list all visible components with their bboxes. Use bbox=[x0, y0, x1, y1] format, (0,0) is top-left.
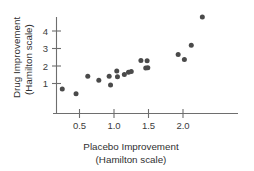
data-point bbox=[145, 65, 150, 70]
data-point bbox=[108, 82, 113, 87]
data-point bbox=[176, 52, 181, 57]
x-tick-label-0-5: 0.5 bbox=[73, 120, 86, 131]
data-point bbox=[107, 74, 112, 79]
data-point bbox=[96, 78, 101, 83]
data-points-layer bbox=[60, 15, 205, 97]
data-point bbox=[60, 87, 65, 92]
data-point bbox=[189, 43, 194, 48]
data-point bbox=[200, 15, 205, 20]
data-point bbox=[182, 57, 187, 62]
data-point bbox=[129, 69, 134, 74]
y-tick-label-1: 1 bbox=[43, 78, 48, 89]
data-point bbox=[138, 58, 143, 63]
y-tick-label-3: 3 bbox=[43, 43, 48, 54]
data-point bbox=[85, 74, 90, 79]
data-point bbox=[145, 58, 150, 63]
y-axis-tick-labels: 4 3 2 1 bbox=[43, 26, 48, 90]
y-axis-title: Drug Improvement (Hamilton scale) bbox=[11, 17, 34, 98]
y-tick-label-2: 2 bbox=[43, 61, 48, 72]
x-axis-title-line2: (Hamilton scale) bbox=[96, 154, 167, 165]
scatter-plot-figure: 4 3 2 1 Drug Improvement (Hamilton scale… bbox=[0, 0, 254, 171]
y-axis-group: 4 3 2 1 Drug Improvement (Hamilton scale… bbox=[11, 17, 61, 113]
x-tick-label-1-0: 1.0 bbox=[107, 120, 120, 131]
y-tick-label-4: 4 bbox=[43, 26, 48, 37]
data-point bbox=[114, 68, 119, 73]
y-axis-title-line2: (Hamilton scale) bbox=[23, 24, 34, 95]
plot-canvas: 4 3 2 1 Drug Improvement (Hamilton scale… bbox=[0, 0, 254, 171]
data-point bbox=[74, 91, 79, 96]
x-axis-title-line1: Placebo Improvement bbox=[83, 141, 179, 152]
data-point bbox=[115, 74, 120, 79]
x-tick-label-2-0: 2.0 bbox=[176, 120, 189, 131]
x-axis-tick-labels: 0.5 1.0 1.5 2.0 bbox=[73, 120, 190, 131]
y-axis-title-line1: Drug Improvement bbox=[11, 17, 22, 98]
x-tick-label-1-5: 1.5 bbox=[142, 120, 155, 131]
x-axis-group: 0.5 1.0 1.5 2.0 Placebo Improvement (Ham… bbox=[53, 109, 238, 165]
